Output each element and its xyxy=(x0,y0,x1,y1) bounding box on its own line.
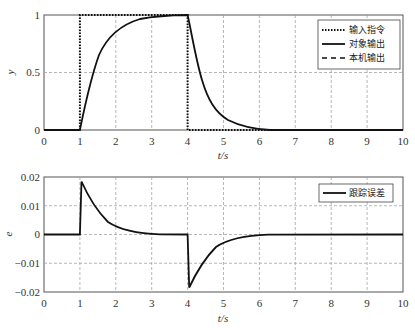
y-tick: −0.02 xyxy=(15,286,40,298)
x-tick: 4 xyxy=(185,297,191,309)
y-tick: 0 xyxy=(35,228,41,240)
top-legend: 输入指令 对象输出 本机输出 xyxy=(318,20,400,69)
legend-label: 本机输出 xyxy=(349,52,385,63)
figure: 输入指令 对象输出 本机输出 0 0.5 1 y 0 1 2 3 4 5 6 7… xyxy=(0,0,415,328)
x-tick: 3 xyxy=(149,297,155,309)
top-axes: 输入指令 对象输出 本机输出 0 0.5 1 y 0 1 2 3 4 5 6 7… xyxy=(4,9,409,161)
bottom-axes: 跟踪误差 0.02 0.01 0 −0.01 −0.02 e 0 1 2 3 4… xyxy=(2,171,409,324)
y-tick: 0 xyxy=(35,124,41,136)
x-tick: 10 xyxy=(398,135,410,147)
y-tick: 0.01 xyxy=(21,200,40,212)
x-tick: 5 xyxy=(221,297,227,309)
x-tick: 8 xyxy=(328,297,334,309)
y-tick: −0.01 xyxy=(15,257,40,269)
x-tick: 6 xyxy=(257,297,263,309)
x-tick: 9 xyxy=(364,297,370,309)
x-axis-label: t/s xyxy=(218,149,228,161)
x-tick: 1 xyxy=(77,297,83,309)
x-tick: 2 xyxy=(113,297,119,309)
y-tick: 0.5 xyxy=(26,66,40,78)
x-tick: 7 xyxy=(293,297,299,309)
y-axis-label: y xyxy=(4,69,16,75)
x-tick: 0 xyxy=(41,297,47,309)
x-axis-label: t/s xyxy=(218,312,228,324)
x-tick: 5 xyxy=(221,135,227,147)
x-tick: 6 xyxy=(257,135,263,147)
x-tick: 9 xyxy=(364,135,370,147)
x-tick: 2 xyxy=(113,135,119,147)
legend-label: 跟踪误差 xyxy=(349,187,385,198)
x-tick: 1 xyxy=(77,135,83,147)
x-tick: 7 xyxy=(293,135,299,147)
legend-label: 输入指令 xyxy=(349,24,385,35)
x-tick: 3 xyxy=(149,135,155,147)
x-tick: 0 xyxy=(41,135,47,147)
y-tick: 1 xyxy=(35,9,41,21)
x-tick: 10 xyxy=(398,297,410,309)
y-axis-label: e xyxy=(2,231,14,236)
legend-label: 对象输出 xyxy=(349,38,385,49)
x-tick: 4 xyxy=(185,135,191,147)
x-tick: 8 xyxy=(328,135,334,147)
y-tick: 0.02 xyxy=(21,171,40,183)
bottom-legend: 跟踪误差 xyxy=(319,184,393,202)
